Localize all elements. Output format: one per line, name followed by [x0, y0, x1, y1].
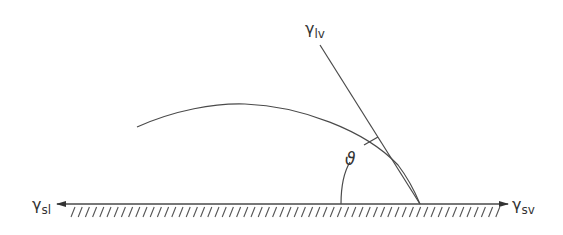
droplet-profile	[137, 104, 420, 204]
diagram-svg: ϑ γlv γsl γsv	[0, 0, 563, 235]
tangent-tick	[364, 137, 378, 145]
surface-hatching	[71, 207, 500, 217]
gamma-lv-label: γlv	[305, 19, 325, 41]
theta-label: ϑ	[345, 149, 356, 169]
solid-surface	[57, 204, 508, 217]
contact-angle-diagram: ϑ γlv γsl γsv	[0, 0, 563, 235]
gamma-sv-label: γsv	[512, 195, 535, 217]
gamma-sl-label: γsl	[32, 195, 51, 217]
